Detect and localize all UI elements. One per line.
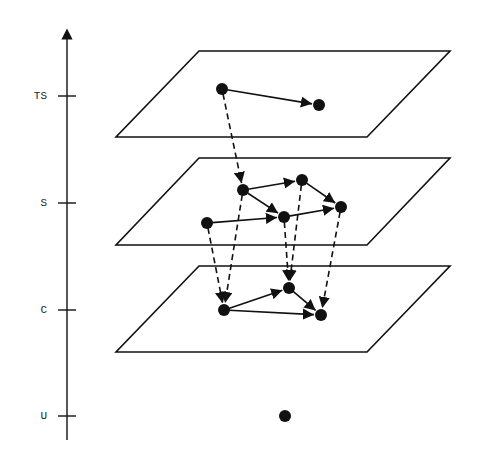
- edge-s1-s2: [248, 181, 295, 189]
- node-s3: [335, 201, 347, 213]
- edges-layer: [208, 90, 340, 315]
- diagram-canvas: [0, 0, 477, 463]
- dashed-edge-s3-c3: [322, 212, 340, 308]
- node-c3: [315, 309, 327, 321]
- node-ts2: [313, 99, 325, 111]
- edge-s5-s4: [212, 218, 277, 223]
- nodes-layer: [201, 83, 347, 422]
- edge-c1-c2: [229, 290, 283, 308]
- node-s4: [278, 211, 290, 223]
- plane-s: [116, 158, 450, 245]
- axis-label-ts: TS: [34, 90, 47, 102]
- node-s5: [201, 217, 213, 229]
- axis-label-s: S: [40, 197, 47, 209]
- axis-label-c: C: [40, 304, 47, 316]
- edge-c1-c3: [229, 310, 314, 314]
- edge-s1-s4: [247, 193, 278, 213]
- node-ts1: [216, 83, 228, 95]
- plane-ts: [116, 51, 450, 137]
- level-axis: [58, 34, 76, 440]
- node-s1: [237, 184, 249, 196]
- edge-s2-s3: [306, 183, 335, 203]
- node-c1: [218, 304, 230, 316]
- dashed-edge-ts1-s1: [223, 94, 242, 183]
- dashed-edge-s1-c1: [225, 195, 242, 303]
- layered-graph-diagram: TSSCU: [0, 0, 477, 463]
- edge-s4-s3: [289, 208, 334, 216]
- edge-c2-c3: [293, 291, 316, 310]
- node-u1: [279, 410, 291, 422]
- dashed-edge-s4-c2: [284, 222, 288, 281]
- plane-c: [116, 266, 450, 352]
- edge-ts1-ts2: [227, 90, 312, 104]
- planes-layer: [116, 51, 450, 352]
- node-s2: [296, 174, 308, 186]
- axis-label-u: U: [40, 410, 47, 422]
- node-c2: [283, 282, 295, 294]
